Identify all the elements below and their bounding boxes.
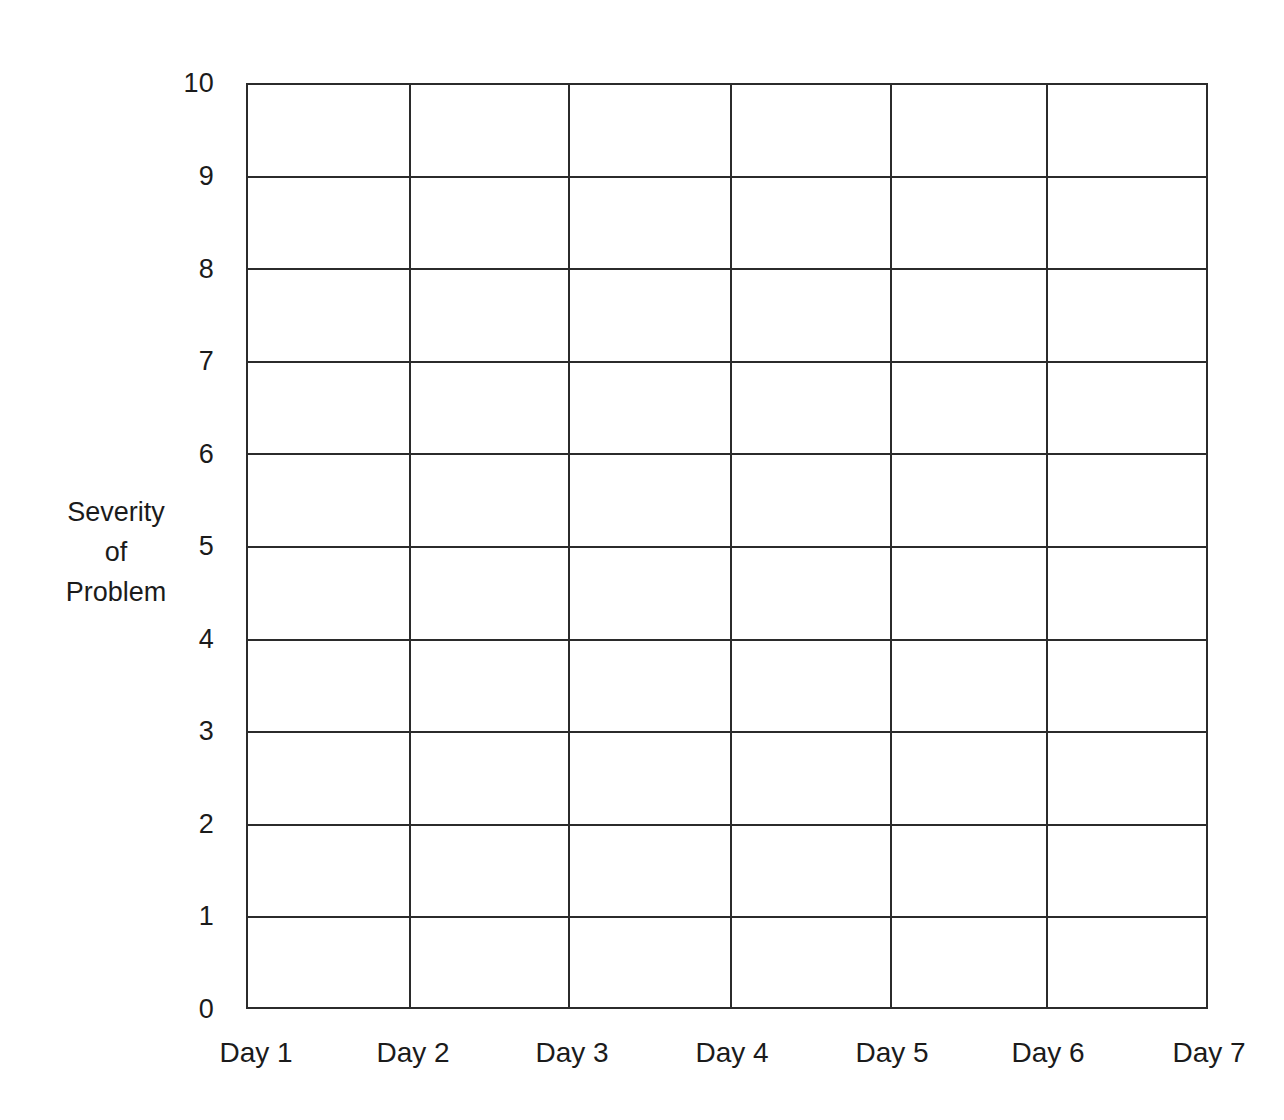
y-tick-label-7: 7 <box>94 348 214 375</box>
y-tick-label-2: 2 <box>94 811 214 838</box>
gridline-horizontal-5 <box>248 546 1206 548</box>
gridline-horizontal-4 <box>248 639 1206 641</box>
gridline-horizontal-7 <box>248 361 1206 363</box>
severity-tracking-chart: Severity of Problem 10 9 8 7 6 5 4 3 2 1… <box>0 0 1284 1120</box>
x-tick-label-day-7: Day 7 <box>1109 1036 1284 1070</box>
y-tick-label-9: 9 <box>94 163 214 190</box>
gridline-horizontal-8 <box>248 268 1206 270</box>
gridline-vertical-day-6 <box>1046 85 1048 1007</box>
y-tick-label-8: 8 <box>94 256 214 283</box>
y-tick-label-0: 0 <box>94 996 214 1023</box>
gridline-vertical-day-3 <box>568 85 570 1007</box>
gridline-vertical-day-2 <box>409 85 411 1007</box>
y-tick-label-6: 6 <box>94 441 214 468</box>
y-tick-label-5: 5 <box>94 533 214 560</box>
gridline-vertical-day-4 <box>730 85 732 1007</box>
gridline-vertical-day-5 <box>890 85 892 1007</box>
gridline-horizontal-6 <box>248 453 1206 455</box>
gridline-horizontal-3 <box>248 731 1206 733</box>
y-tick-label-1: 1 <box>94 903 214 930</box>
plot-area <box>246 83 1208 1009</box>
y-tick-label-3: 3 <box>94 718 214 745</box>
y-tick-label-10: 10 <box>94 70 214 97</box>
gridline-horizontal-9 <box>248 176 1206 178</box>
y-tick-label-4: 4 <box>94 626 214 653</box>
gridline-horizontal-1 <box>248 916 1206 918</box>
gridline-horizontal-2 <box>248 824 1206 826</box>
